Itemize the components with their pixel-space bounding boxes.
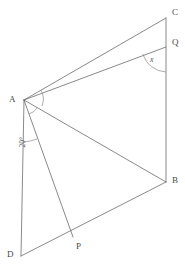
figure-canvas xyxy=(0,0,185,267)
segment-A-D xyxy=(21,100,24,256)
segment-A-Q xyxy=(24,47,166,100)
angle-arc-Q xyxy=(143,54,166,72)
vertex-label-Q: Q xyxy=(172,38,179,47)
angle-label-20-degrees: 20° xyxy=(19,137,27,148)
geometry-figure: A B C D P Q 20° x xyxy=(0,0,185,267)
angle-arc-A-upper xyxy=(41,90,43,106)
segment-D-B xyxy=(21,182,166,256)
vertex-label-C: C xyxy=(172,8,178,17)
vertex-label-D: D xyxy=(7,250,14,259)
segment-A-P xyxy=(24,100,73,237)
segment-A-B xyxy=(24,100,166,182)
vertex-label-A: A xyxy=(9,95,16,104)
angle-arc-A-middle xyxy=(29,108,37,114)
angle-label-x: x xyxy=(150,56,154,64)
vertex-label-P: P xyxy=(76,242,81,251)
vertex-label-B: B xyxy=(172,176,178,185)
